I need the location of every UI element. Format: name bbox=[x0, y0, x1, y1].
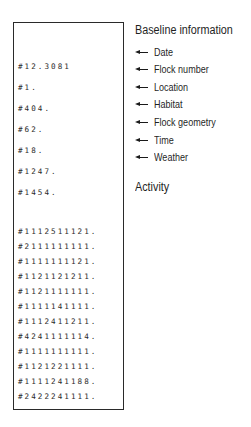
left-arrow-icon bbox=[135, 134, 148, 146]
activity-line: #2422241111. bbox=[18, 392, 97, 402]
label-habitat: Habitat bbox=[135, 98, 187, 110]
activity-line: #4241111114. bbox=[18, 332, 97, 342]
activity-line: #1121111111. bbox=[18, 287, 97, 297]
baseline-information-title: Baseline information bbox=[135, 23, 233, 37]
baseline-line-weather: #1454. bbox=[18, 188, 58, 198]
activity-title: Activity bbox=[135, 180, 169, 194]
label-date: Date bbox=[135, 46, 176, 58]
baseline-line-habitat: #62. bbox=[18, 125, 45, 135]
left-arrow-icon bbox=[135, 116, 148, 128]
activity-line: #1111141111. bbox=[18, 302, 97, 312]
label-flock-geometry: Flock geometry bbox=[135, 116, 226, 128]
activity-line: #1121121211. bbox=[18, 272, 97, 282]
activity-line: #1121221111. bbox=[18, 362, 97, 372]
left-arrow-icon bbox=[135, 98, 148, 110]
activity-line: #1111241188. bbox=[18, 377, 97, 387]
left-arrow-icon bbox=[135, 63, 148, 75]
activity-line: #1112411211. bbox=[18, 317, 97, 327]
label-time: Time bbox=[135, 134, 177, 146]
label-location: Location bbox=[135, 81, 194, 93]
baseline-line-flock-number: #1. bbox=[18, 83, 38, 93]
baseline-line-flock-geometry: #18. bbox=[18, 146, 45, 156]
printout-box: #12.3081 #1. #404. #62. #18. #1247. #145… bbox=[13, 22, 124, 410]
label-flock-number: Flock number bbox=[135, 63, 218, 75]
baseline-line-location: #404. bbox=[18, 104, 51, 114]
baseline-line-time: #1247. bbox=[18, 167, 58, 177]
baseline-line-date: #12.3081 bbox=[18, 62, 71, 72]
activity-line: #1111111111. bbox=[18, 347, 97, 357]
activity-line: #1112511121. bbox=[18, 227, 97, 237]
left-arrow-icon bbox=[135, 81, 148, 93]
activity-line: #1111111121. bbox=[18, 257, 97, 267]
label-weather: Weather bbox=[135, 151, 194, 163]
left-arrow-icon bbox=[135, 46, 148, 58]
activity-line: #2111111111. bbox=[18, 242, 97, 252]
left-arrow-icon bbox=[135, 151, 148, 163]
